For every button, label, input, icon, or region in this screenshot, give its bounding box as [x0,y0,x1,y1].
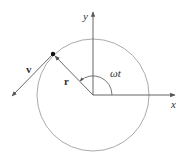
y-axis-label: y [82,10,88,22]
velocity-vector-label: v [26,63,32,75]
velocity-vector-v [12,54,53,96]
particle-point [51,52,55,56]
angle-arc [80,76,112,95]
angle-label: ωt [110,67,122,79]
position-vector-r [55,56,93,95]
x-axis-label: x [170,98,176,110]
circular-motion-diagram: y x r v ωt [0,0,188,165]
position-vector-label: r [64,75,69,87]
